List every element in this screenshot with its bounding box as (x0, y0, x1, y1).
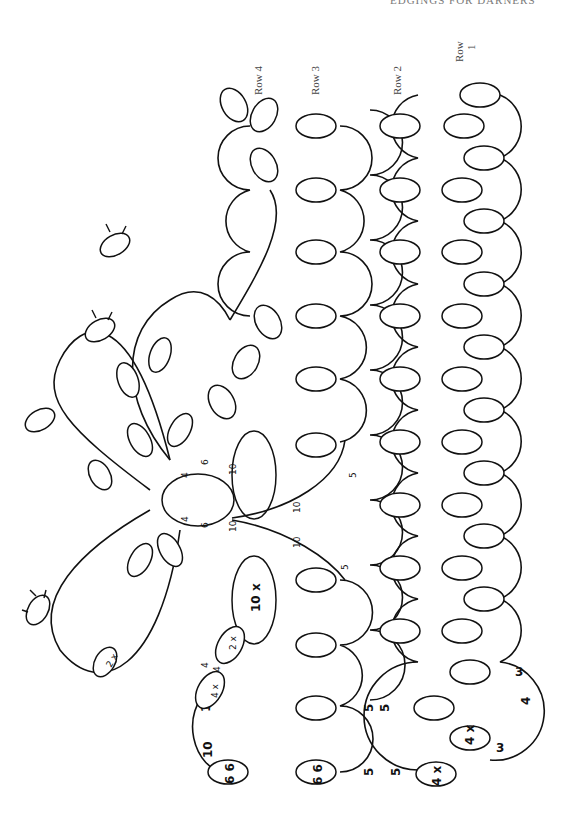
row1-chain-count-bottom: 3 (496, 741, 504, 755)
row-3-label: Row 3 (309, 65, 321, 95)
row1-chain-count-mid: 4 (519, 697, 533, 705)
center-6b: 6 (200, 522, 210, 528)
row3-ring-count: 6 6 (311, 764, 325, 785)
center-chain-10a: 10 (292, 501, 302, 513)
flower-4a: 4 (200, 662, 210, 668)
flower-2x: 2 x (228, 635, 238, 650)
row2-chain-count-c: 5 (362, 768, 376, 776)
flower-4x: 4 x (210, 683, 220, 698)
row1-chain-count-top: 3 (515, 665, 523, 679)
center-chain-5b: 5 (340, 564, 350, 570)
large-ring-count: 10 x (249, 583, 263, 612)
center-4b: 4 (180, 516, 190, 522)
row-3: 6 6 (296, 114, 373, 785)
center-6a: 6 (200, 459, 210, 465)
row1-ring-count: 4 x (463, 724, 477, 745)
flower-4b: 4 (212, 666, 222, 672)
row-1-label-number: 1 (465, 45, 477, 51)
row-2-label: Row 2 (391, 66, 403, 95)
row4-chain-count-b: 10 (201, 741, 215, 758)
row4-ring-count: 6 6 (223, 763, 237, 784)
row2-chain-count-d: 5 (389, 768, 403, 776)
row-1: 3 4 3 4 x (442, 83, 544, 760)
center-10b: 10 (228, 520, 238, 532)
center-4a: 4 (180, 472, 190, 478)
row-4-label: Row 4 (252, 65, 264, 95)
row2-chain-count-a: 5 (362, 704, 376, 712)
center-chain-5a: 5 (348, 472, 358, 478)
center-10a: 10 (228, 463, 238, 475)
tatting-diagram: Row 4 Row 3 Row 2 Row 1 3 4 3 4 x (0, 0, 563, 821)
row2-ring-count: 4 x (430, 765, 444, 786)
row-1-label: Row (453, 41, 465, 62)
center-chain-10b: 10 (292, 536, 302, 548)
row2-chain-count-b: 5 (378, 704, 392, 712)
